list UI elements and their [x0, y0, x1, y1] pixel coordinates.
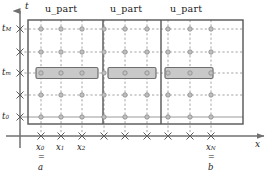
x-tick-label-x0: x0: [36, 143, 44, 152]
x-tick-label-x2: x2: [77, 143, 85, 152]
x-tick-sub: 2: [82, 145, 86, 151]
highlight-strip: [36, 68, 98, 79]
x-tick-sub: 0: [41, 145, 45, 151]
t-axis-label: t: [25, 2, 29, 11]
figure-canvas: u_part u_part u_part t x tM tm t0 x0 x1 …: [0, 0, 274, 178]
t-tick-label-t0: t0: [2, 112, 9, 121]
grid-horizontal-lines: [20, 29, 243, 95]
block-label-u-part-3: u_part: [170, 4, 202, 14]
block-label-u-part-1: u_part: [45, 4, 77, 14]
equals-glyph-b: =: [208, 153, 215, 161]
t-tick-sub: m: [5, 70, 10, 76]
x-tick-label-xN: xN: [206, 143, 216, 152]
x-axis-label: x: [255, 140, 260, 149]
x-tick-label-x1: x1: [56, 143, 64, 152]
boundary-label-a: a: [38, 163, 43, 172]
t-tick-sub: 0: [5, 114, 9, 120]
x-tick-sub: 1: [61, 145, 65, 151]
t-tick-label-tm: tm: [2, 68, 11, 77]
boundary-label-b: b: [208, 163, 213, 172]
x-tick-sub: N: [211, 145, 216, 151]
block-label-u-part-2: u_part: [110, 4, 142, 14]
t-tick-sub: M: [5, 26, 11, 32]
equals-glyph-a: =: [38, 153, 45, 161]
t-tick-label-tM: tM: [2, 24, 11, 33]
